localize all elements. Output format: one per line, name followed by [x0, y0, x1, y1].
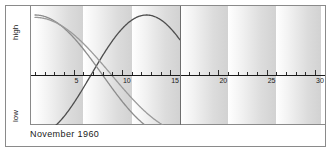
- x-axis-minor-tick: [296, 72, 297, 75]
- y-axis-high-label: high: [11, 25, 20, 40]
- x-axis-minor-tick: [247, 72, 248, 75]
- today-marker-line: [180, 6, 181, 125]
- x-axis-minor-tick: [199, 72, 200, 75]
- x-axis-minor-tick: [257, 72, 258, 75]
- x-axis-minor-tick: [83, 72, 84, 75]
- x-axis-minor-tick: [64, 72, 65, 75]
- y-axis-low-label: low: [11, 110, 20, 122]
- x-axis-minor-tick: [151, 72, 152, 75]
- plot-area: 51015202530: [31, 6, 325, 125]
- x-axis-minor-tick: [228, 72, 229, 75]
- footer-bar: November 1960: [6, 124, 325, 146]
- x-axis-minor-tick: [238, 72, 239, 75]
- x-axis-tick-label: 15: [171, 77, 179, 84]
- x-axis-minor-tick: [276, 72, 277, 75]
- x-axis-minor-tick: [161, 72, 162, 75]
- x-axis-tick-label: 25: [268, 77, 276, 84]
- x-axis-minor-tick: [286, 72, 287, 75]
- x-axis-minor-tick: [209, 72, 210, 75]
- curve-intellectual: [35, 17, 180, 125]
- x-axis-minor-tick: [93, 72, 94, 75]
- x-axis-tick-label: 30: [316, 77, 324, 84]
- x-axis-minor-tick: [112, 72, 113, 75]
- x-axis-minor-tick: [132, 72, 133, 75]
- x-axis-minor-tick: [141, 72, 142, 75]
- x-axis-major-tick: [267, 70, 268, 75]
- x-axis-major-tick: [74, 70, 75, 75]
- x-axis-minor-tick: [35, 72, 36, 75]
- x-axis-tick-label: 20: [219, 77, 227, 84]
- x-axis-major-tick: [218, 70, 219, 75]
- x-axis-minor-tick: [45, 72, 46, 75]
- zero-axis-line: [31, 75, 325, 76]
- x-axis-major-tick: [122, 70, 123, 75]
- x-axis-minor-tick: [54, 72, 55, 75]
- x-axis-minor-tick: [305, 72, 306, 75]
- x-axis-major-tick: [170, 70, 171, 75]
- x-axis-major-tick: [315, 70, 316, 75]
- biorhythm-chart-frame: high low 51015202530 November 1960: [5, 5, 326, 147]
- x-axis-tick-label: 10: [123, 77, 131, 84]
- y-axis-label-column: high low: [6, 6, 31, 125]
- chart-date-label: November 1960: [30, 129, 99, 139]
- biorhythm-curves: [31, 6, 325, 125]
- x-axis-minor-tick: [103, 72, 104, 75]
- x-axis-minor-tick: [189, 72, 190, 75]
- x-axis-tick-label: 5: [75, 77, 79, 84]
